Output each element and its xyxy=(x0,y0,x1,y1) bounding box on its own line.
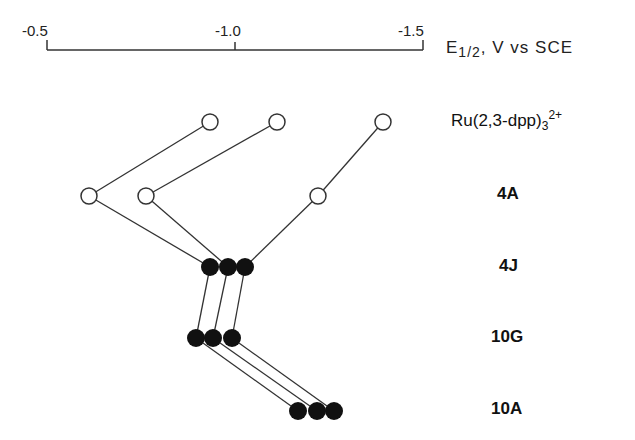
open-circle-marker xyxy=(310,188,326,204)
axis-title-e: E xyxy=(446,38,458,57)
open-circle-marker xyxy=(202,114,218,130)
open-circle-marker xyxy=(375,114,391,130)
potential-axis xyxy=(47,40,423,50)
row-label-10a: 10A xyxy=(491,399,522,419)
filled-circle-marker xyxy=(289,402,307,420)
diagram-canvas: -0.5 -1.0 -1.5 xyxy=(0,0,635,440)
row-label-ru: Ru(2,3-dpp)32+ xyxy=(451,108,562,133)
tick-label-left: -0.5 xyxy=(22,22,48,39)
row-label-4a: 4A xyxy=(497,184,519,204)
ru-label-sup: 2+ xyxy=(548,108,562,122)
open-circle-marker xyxy=(138,188,154,204)
axis-title-rest: , V vs SCE xyxy=(481,38,573,57)
filled-circle-marker xyxy=(236,258,254,276)
filled-circle-marker xyxy=(204,329,222,347)
axis-title: E1/2, V vs SCE xyxy=(446,38,573,58)
filled-circle-marker xyxy=(187,329,205,347)
filled-circle-marker xyxy=(201,258,219,276)
filled-circle-marker xyxy=(308,402,326,420)
filled-markers xyxy=(187,258,343,420)
row-label-10g: 10G xyxy=(491,327,523,347)
tick-label-right: -1.5 xyxy=(398,22,424,39)
ru-label-text: Ru(2,3-dpp) xyxy=(451,111,542,130)
row-label-4j: 4J xyxy=(499,256,518,276)
open-markers xyxy=(81,114,391,204)
open-circle-marker xyxy=(269,114,285,130)
filled-circle-marker xyxy=(325,402,343,420)
open-circle-marker xyxy=(81,188,97,204)
filled-circle-marker xyxy=(223,329,241,347)
axis-title-subscript: 1/2 xyxy=(458,44,480,60)
filled-circle-marker xyxy=(219,258,237,276)
tick-label-mid: -1.0 xyxy=(215,22,241,39)
